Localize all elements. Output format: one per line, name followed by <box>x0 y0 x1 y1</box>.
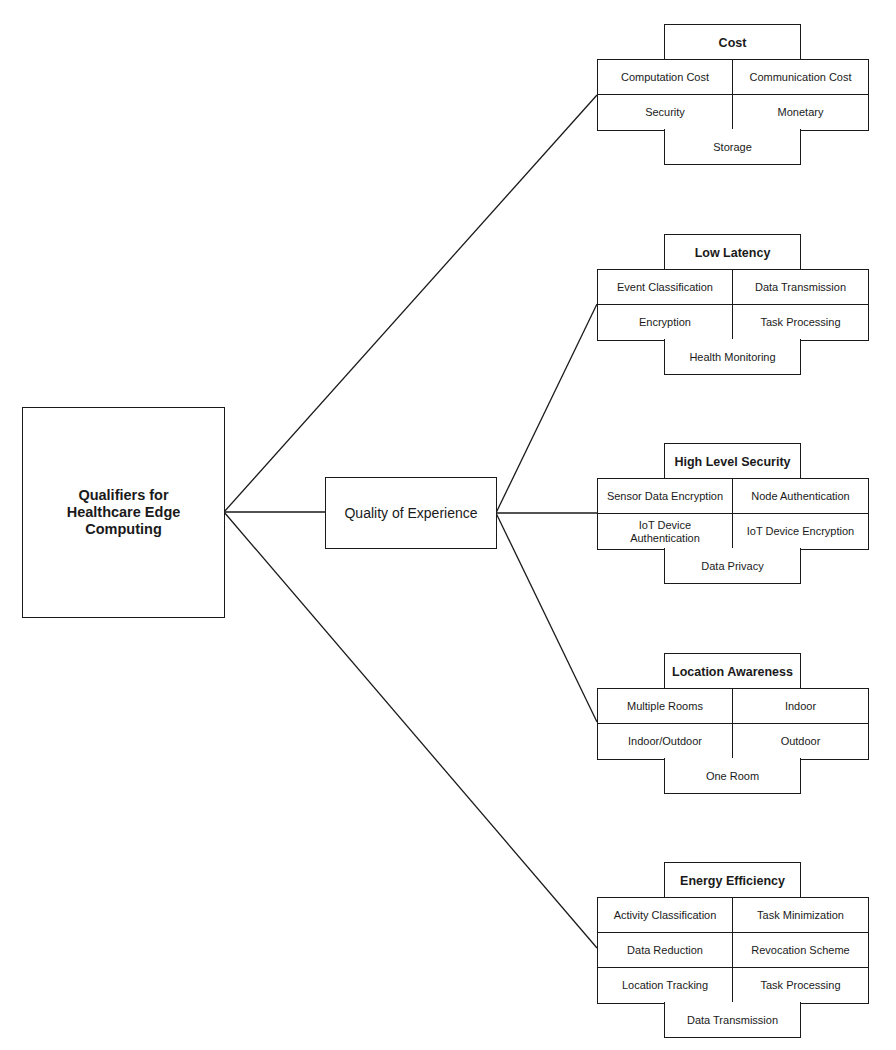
group-title: Energy Efficiency <box>664 862 801 898</box>
edge-qoe-to-location-awareness <box>496 513 597 722</box>
group-item: Monetary <box>733 95 868 130</box>
qoe-node-label: Quality of Experience <box>344 505 477 521</box>
group-item: IoT Device Encryption <box>733 514 868 549</box>
group-item: Multiple Rooms <box>598 689 733 724</box>
group-item: Task Processing <box>733 968 868 1003</box>
group-high-level-security: High Level Security Sensor Data Encrypti… <box>597 443 869 584</box>
group-item: Indoor/Outdoor <box>598 724 733 759</box>
group-title: Low Latency <box>664 234 801 270</box>
group-item: Task Processing <box>733 305 868 340</box>
group-footer: Data Privacy <box>664 548 801 584</box>
root-node-label: Qualifiers for Healthcare Edge Computing <box>43 487 204 537</box>
group-item: Revocation Scheme <box>733 933 868 968</box>
group-item: Data Reduction <box>598 933 733 968</box>
edge-root-to-cost <box>224 95 597 512</box>
group-location-awareness: Location Awareness Multiple Rooms Indoor… <box>597 653 869 794</box>
quality-of-experience-node: Quality of Experience <box>325 477 497 549</box>
group-item: Sensor Data Encryption <box>598 479 733 514</box>
group-grid: Computation Cost Communication Cost Secu… <box>597 59 869 131</box>
group-footer: One Room <box>664 758 801 794</box>
group-item: Encryption <box>598 305 733 340</box>
group-title: High Level Security <box>664 443 801 479</box>
group-grid: Multiple Rooms Indoor Indoor/Outdoor Out… <box>597 688 869 760</box>
group-item: IoT Device Authentication <box>598 514 733 549</box>
group-footer: Storage <box>664 129 801 165</box>
group-grid: Sensor Data Encryption Node Authenticati… <box>597 478 869 550</box>
edge-root-to-energy-efficiency <box>224 512 597 948</box>
group-item: Computation Cost <box>598 60 733 95</box>
group-item: Activity Classification <box>598 898 733 933</box>
group-grid: Event Classification Data Transmission E… <box>597 269 869 341</box>
group-item: Task Minimization <box>733 898 868 933</box>
group-grid: Activity Classification Task Minimizatio… <box>597 897 869 1004</box>
root-node: Qualifiers for Healthcare Edge Computing <box>22 407 225 618</box>
group-item: Security <box>598 95 733 130</box>
group-low-latency: Low Latency Event Classification Data Tr… <box>597 234 869 375</box>
group-item: Outdoor <box>733 724 868 759</box>
group-item: Indoor <box>733 689 868 724</box>
group-title: Location Awareness <box>664 653 801 689</box>
group-item: Location Tracking <box>598 968 733 1003</box>
group-item: Event Classification <box>598 270 733 305</box>
edge-qoe-to-low-latency <box>496 304 597 513</box>
group-cost: Cost Computation Cost Communication Cost… <box>597 24 869 165</box>
group-item: Data Transmission <box>733 270 868 305</box>
group-footer: Health Monitoring <box>664 339 801 375</box>
group-item: Node Authentication <box>733 479 868 514</box>
group-energy-efficiency: Energy Efficiency Activity Classificatio… <box>597 862 869 1038</box>
group-footer: Data Transmission <box>664 1002 801 1038</box>
group-item: Communication Cost <box>733 60 868 95</box>
group-title: Cost <box>664 24 801 60</box>
